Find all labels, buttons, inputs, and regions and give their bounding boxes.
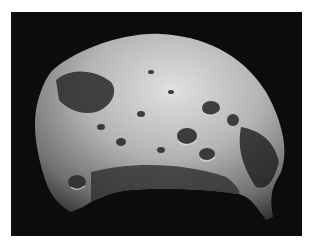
- space-photo: [11, 12, 302, 236]
- moon-illustration: [11, 12, 302, 236]
